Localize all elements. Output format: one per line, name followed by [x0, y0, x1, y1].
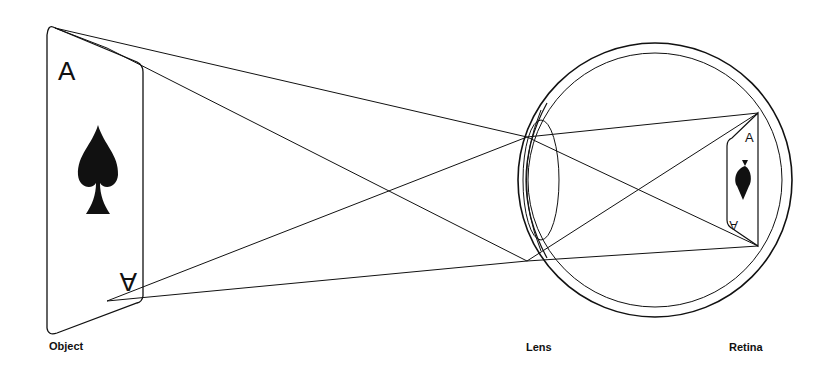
object-card-rank-top: A [58, 56, 76, 86]
retina-card-rank-bottom: A [729, 218, 738, 233]
object-label: Object [49, 340, 83, 352]
eye-optics-diagram: A A A A [0, 0, 830, 378]
light-rays [55, 28, 758, 301]
lens-label: Lens [526, 341, 552, 353]
retina-label: Retina [729, 341, 763, 353]
retina-card-rank-top: A [745, 130, 754, 145]
